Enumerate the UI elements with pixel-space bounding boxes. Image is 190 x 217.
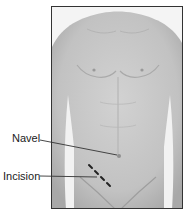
incision-leader-line	[40, 176, 97, 177]
navel-label: Navel	[12, 132, 40, 144]
leader-lines	[0, 0, 190, 217]
incision-label: Incision	[3, 170, 40, 182]
navel-leader-line	[40, 140, 117, 155]
